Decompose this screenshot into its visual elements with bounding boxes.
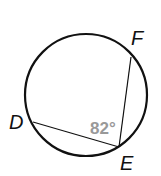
- label-f: F: [131, 27, 145, 49]
- inscribed-angle-diagram: F D E 82°: [0, 0, 161, 176]
- label-d: D: [9, 111, 23, 133]
- angle-measure: 82°: [90, 119, 116, 138]
- label-e: E: [120, 152, 134, 174]
- chord-ef: [119, 57, 131, 147]
